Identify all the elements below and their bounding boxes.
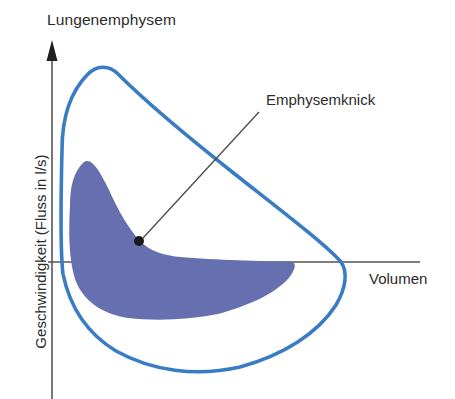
x-axis-label: Volumen — [369, 270, 427, 287]
y-axis-label: Geschwindigkeit (Fluss in l/s) — [32, 127, 49, 377]
curves-group — [61, 67, 345, 372]
flow-volume-loop-figure: Lungenemphysem Emphysemknick Volumen Ges… — [0, 0, 455, 399]
flow-volume-plot — [0, 0, 455, 399]
emphysemknick-marker-dot — [134, 236, 144, 246]
y-axis-arrow-icon — [47, 40, 58, 61]
emphysemknick-annotation-label: Emphysemknick — [266, 91, 375, 108]
emphysema-filled-loop — [69, 161, 295, 320]
annotation-leader-line — [143, 112, 259, 238]
